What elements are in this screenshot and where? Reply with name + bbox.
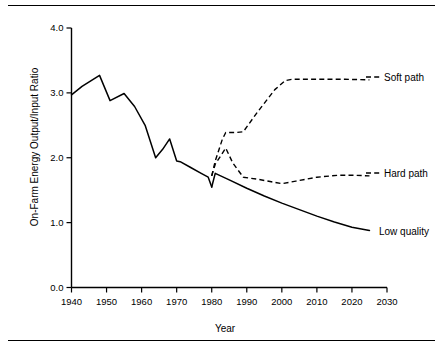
x-tick-label-1950: 1950 bbox=[96, 296, 117, 307]
x-tick-label-2030: 2030 bbox=[376, 296, 397, 307]
x-tick-label-1990: 1990 bbox=[236, 296, 257, 307]
axes-group: 0.01.02.03.04.0 194019501960197019801990… bbox=[50, 22, 397, 306]
chart-plot-area: 0.01.02.03.04.0 194019501960197019801990… bbox=[0, 0, 443, 350]
x-tick-label-1960: 1960 bbox=[131, 296, 152, 307]
series-line-soft-path bbox=[212, 79, 370, 176]
data-series-group bbox=[72, 75, 370, 230]
series-line-low-quality bbox=[212, 173, 370, 230]
y-tick-label-1.0: 1.0 bbox=[50, 217, 63, 228]
figure-container: 0.01.02.03.04.0 194019501960197019801990… bbox=[0, 0, 443, 350]
x-tick-label-2020: 2020 bbox=[341, 296, 362, 307]
y-tick-label-2.0: 2.0 bbox=[50, 152, 63, 163]
y-tick-marks bbox=[67, 28, 72, 288]
series-label-hard-path: Hard path bbox=[384, 168, 428, 179]
series-label-soft-path: Soft path bbox=[384, 72, 424, 83]
series-line-historical bbox=[72, 75, 212, 187]
x-tick-label-2010: 2010 bbox=[306, 296, 327, 307]
y-tick-label-4.0: 4.0 bbox=[50, 22, 63, 33]
x-tick-label-1940: 1940 bbox=[61, 296, 82, 307]
x-tick-label-2000: 2000 bbox=[271, 296, 292, 307]
x-tick-labels: 1940195019601970198019902000201020202030 bbox=[61, 296, 398, 307]
x-tick-label-1970: 1970 bbox=[166, 296, 187, 307]
y-tick-label-3.0: 3.0 bbox=[50, 87, 63, 98]
x-tick-label-1980: 1980 bbox=[201, 296, 222, 307]
y-axis-title-wrapper: On-Farm Energy Output/Input Ratio bbox=[24, 37, 42, 257]
series-label-low-quality: Low quality bbox=[379, 226, 429, 237]
y-tick-labels: 0.01.02.03.04.0 bbox=[50, 22, 63, 293]
x-tick-marks bbox=[72, 288, 388, 293]
series-line-hard-path bbox=[212, 148, 370, 184]
legend-leader-lines bbox=[366, 77, 381, 173]
y-axis-title: On-Farm Energy Output/Input Ratio bbox=[29, 68, 40, 226]
x-axis-title: Year bbox=[215, 323, 235, 334]
y-tick-label-0.0: 0.0 bbox=[50, 282, 63, 293]
x-axis-title-wrapper: Year bbox=[130, 318, 320, 336]
